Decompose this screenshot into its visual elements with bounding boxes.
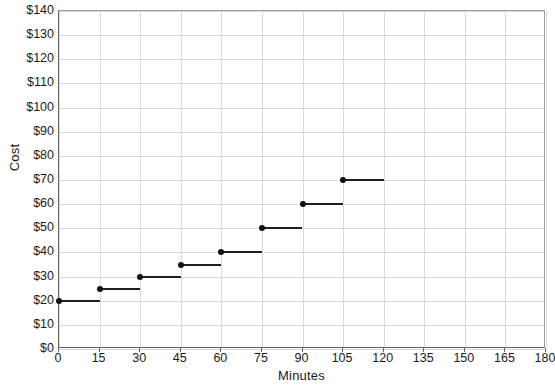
x-axis-tick-label: 30: [132, 352, 146, 365]
x-axis-tick-label: 120: [372, 352, 393, 365]
grid-line-horizontal: [59, 277, 544, 278]
data-point-marker: [259, 225, 265, 231]
x-axis-tick-labels: 0153045607590105120135150165180: [58, 352, 545, 368]
grid-line-horizontal: [59, 301, 544, 302]
grid-line-vertical: [465, 11, 466, 347]
step-segment: [140, 276, 181, 278]
plot-area: [58, 10, 545, 348]
grid-line-horizontal: [59, 59, 544, 60]
grid-line-horizontal: [59, 180, 544, 181]
grid-line-horizontal: [59, 325, 544, 326]
grid-line-vertical: [384, 11, 385, 347]
y-axis-tick-label: $110: [2, 76, 54, 89]
x-axis-tick-label: 180: [535, 352, 555, 365]
x-axis-tick-label: 15: [92, 352, 106, 365]
step-segment: [221, 251, 262, 253]
x-axis-tick-label: 90: [295, 352, 309, 365]
y-axis-tick-labels: $0$10$20$30$40$50$60$70$80$90$100$110$12…: [0, 10, 54, 348]
grid-line-horizontal: [59, 83, 544, 84]
data-point-marker: [56, 298, 62, 304]
data-point-marker: [97, 286, 103, 292]
y-axis-tick-label: $10: [2, 318, 54, 331]
step-segment: [262, 227, 303, 229]
step-segment: [303, 203, 344, 205]
grid-line-horizontal: [59, 108, 544, 109]
grid-line-vertical: [59, 11, 60, 347]
y-axis-tick-label: $70: [2, 173, 54, 186]
grid-line-horizontal: [59, 156, 544, 157]
y-axis-tick-label: $80: [2, 149, 54, 162]
grid-line-horizontal: [59, 35, 544, 36]
y-axis-tick-label: $50: [2, 221, 54, 234]
data-point-marker: [218, 249, 224, 255]
grid-line-vertical: [181, 11, 182, 347]
y-axis-tick-label: $130: [2, 28, 54, 41]
x-axis-tick-label: 45: [173, 352, 187, 365]
grid-line-horizontal: [59, 11, 544, 12]
y-axis-tick-label: $120: [2, 52, 54, 65]
grid-line-vertical: [303, 11, 304, 347]
grid-line-vertical: [505, 11, 506, 347]
x-axis-tick-label: 60: [213, 352, 227, 365]
grid-line-horizontal: [59, 252, 544, 253]
grid-line-horizontal: [59, 132, 544, 133]
grid-line-vertical: [546, 11, 547, 347]
y-axis-tick-label: $20: [2, 293, 54, 306]
y-axis-tick-label: $100: [2, 100, 54, 113]
x-axis-tick-label: 150: [453, 352, 474, 365]
x-axis-tick-label: 0: [55, 352, 62, 365]
x-axis-tick-label: 75: [254, 352, 268, 365]
step-segment: [59, 300, 100, 302]
x-axis-tick-label: 105: [332, 352, 353, 365]
data-point-marker: [340, 177, 346, 183]
step-segment: [100, 288, 141, 290]
step-segment: [181, 264, 222, 266]
grid-line-vertical: [424, 11, 425, 347]
grid-line-vertical: [100, 11, 101, 347]
data-point-marker: [137, 274, 143, 280]
grid-line-vertical: [262, 11, 263, 347]
data-point-marker: [300, 201, 306, 207]
x-axis-tick-label: 135: [413, 352, 434, 365]
data-point-marker: [178, 262, 184, 268]
y-axis-tick-label: $40: [2, 245, 54, 258]
y-axis-tick-label: $140: [2, 4, 54, 17]
step-segment: [343, 179, 384, 181]
y-axis-tick-label: $0: [2, 342, 54, 355]
grid-line-vertical: [140, 11, 141, 347]
x-axis-tick-label: 165: [494, 352, 515, 365]
y-axis-tick-label: $60: [2, 197, 54, 210]
grid-line-vertical: [221, 11, 222, 347]
y-axis-tick-label: $90: [2, 124, 54, 137]
x-axis-title: Minutes: [58, 368, 545, 383]
y-axis-tick-label: $30: [2, 269, 54, 282]
